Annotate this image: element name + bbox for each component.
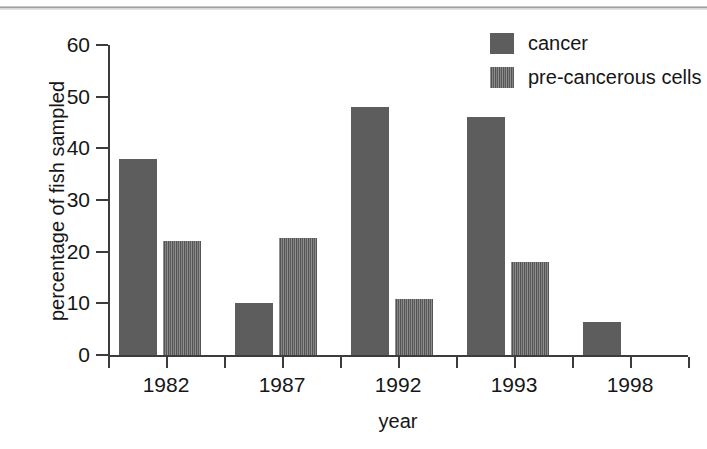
bar-cancer-1982 <box>119 159 157 355</box>
y-axis-tick <box>96 354 108 356</box>
x-axis-tick-minor <box>630 357 632 368</box>
y-axis-tick <box>96 251 108 253</box>
solid-gray-swatch-icon <box>490 33 514 54</box>
x-axis-tick-minor <box>398 357 400 368</box>
y-axis-tick <box>96 44 108 46</box>
x-axis-tick <box>456 357 458 368</box>
chart-legend: cancerpre-cancerous cells <box>490 28 701 96</box>
x-axis-tick <box>340 357 342 368</box>
x-axis-tick-minor <box>282 357 284 368</box>
bar-cancer-1993 <box>467 117 505 355</box>
bar-cancer-1992 <box>351 107 389 355</box>
y-axis-tick <box>96 199 108 201</box>
hatched-gray-swatch-icon <box>490 67 514 88</box>
bar-pre-cancerous-cells-1992 <box>395 299 433 355</box>
x-axis-title: year <box>108 410 688 432</box>
x-axis-tick <box>108 357 110 368</box>
scan-artifact-rule-shadow <box>0 9 707 10</box>
x-axis-tick-label: 1993 <box>459 374 569 396</box>
bar-pre-cancerous-cells-1982 <box>163 241 201 355</box>
y-axis-title: percentage of fish sampled <box>46 51 68 351</box>
y-axis-tick <box>96 147 108 149</box>
x-axis-tick-minor <box>514 357 516 368</box>
x-axis-tick-label: 1998 <box>575 374 685 396</box>
x-axis-tick-minor <box>166 357 168 368</box>
x-axis-tick-label: 1987 <box>227 374 337 396</box>
y-axis-tick <box>96 302 108 304</box>
x-axis-tick <box>572 357 574 368</box>
bar-chart-figure: 6050403020100 19821987199219931998 year … <box>0 0 707 449</box>
x-axis-tick-label: 1982 <box>111 374 221 396</box>
legend-item: cancer <box>490 28 701 58</box>
bar-cancer-1987 <box>235 303 273 355</box>
bar-cancer-1998 <box>583 322 621 355</box>
legend-item-label: cancer <box>528 32 588 54</box>
y-axis-tick <box>96 96 108 98</box>
x-axis-tick-label: 1992 <box>343 374 453 396</box>
x-axis-tick <box>688 357 690 368</box>
bar-pre-cancerous-cells-1993 <box>511 262 549 355</box>
bar-pre-cancerous-cells-1987 <box>279 238 317 355</box>
x-axis-tick <box>224 357 226 368</box>
legend-item-label: pre-cancerous cells <box>528 66 701 88</box>
legend-item: pre-cancerous cells <box>490 62 701 92</box>
